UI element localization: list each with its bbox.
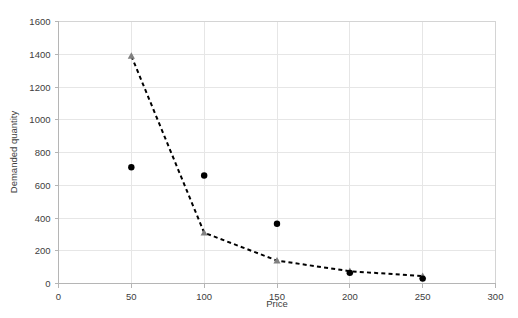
scatter-point [419,275,425,281]
chart-container: 050100150200250300 020040060080010001200… [0,0,518,318]
x-tick-label: 50 [126,291,137,302]
y-tick-label: 1000 [29,114,50,125]
y-tick-label: 200 [35,245,51,256]
scatter-point [128,164,134,170]
y-axis-title: Demanded quantity [8,111,19,194]
x-tick-label: 0 [56,291,61,302]
y-tick-label: 0 [45,278,50,289]
scatter-point [274,221,280,227]
x-tick-label: 100 [196,291,212,302]
scatter-point [201,172,207,178]
chart-background [0,0,518,318]
x-axis-title: Price [266,298,288,309]
y-tick-label: 1200 [29,82,50,93]
y-tick-label: 1400 [29,49,50,60]
y-tick-label: 400 [35,213,51,224]
x-tick-label: 300 [488,291,504,302]
x-tick-label: 250 [415,291,431,302]
demand-curve-chart: 050100150200250300 020040060080010001200… [0,0,518,318]
y-tick-label: 800 [35,147,51,158]
y-tick-label: 1600 [29,16,50,27]
y-tick-label: 600 [35,180,51,191]
scatter-point [347,270,353,276]
x-tick-label: 200 [342,291,358,302]
